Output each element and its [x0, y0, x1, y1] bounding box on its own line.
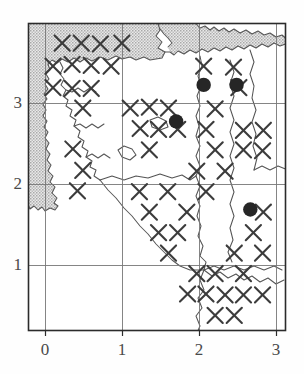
x-tick-label-0: 0 [35, 341, 55, 358]
y-tick-label-1: 1 [6, 256, 22, 273]
x-tick-label-2: 2 [189, 341, 209, 358]
occurrence-record-marker [169, 114, 183, 128]
occurrence-record-marker [243, 202, 257, 216]
tick-marks [46, 331, 277, 337]
occurrence-record-marker [196, 78, 210, 92]
y-tick-label-2: 2 [6, 175, 22, 192]
y-tick-label-3: 3 [6, 94, 22, 111]
figure-root: 0 1 2 3 1 2 3 [0, 0, 304, 374]
occurrence-record-marker [229, 78, 243, 92]
distribution-map-figure [0, 0, 304, 374]
x-tick-label-3: 3 [266, 341, 286, 358]
x-tick-label-1: 1 [112, 341, 132, 358]
